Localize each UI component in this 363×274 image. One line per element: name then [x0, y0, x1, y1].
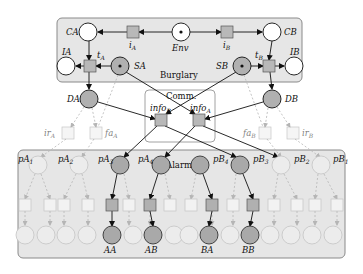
svg-text:CA: CA — [66, 27, 79, 37]
place-Env: Env — [171, 23, 190, 53]
petri-net-diagram: Burglary Comm. Alarm — [0, 0, 363, 274]
svg-text:Env: Env — [171, 43, 189, 53]
place-DB: DB — [263, 90, 298, 108]
transition-irB: irB — [287, 127, 314, 139]
transition-faA: faA — [90, 127, 118, 139]
svg-text:IA: IA — [61, 47, 72, 57]
svg-text:AA: AA — [103, 245, 116, 255]
svg-text:DA: DA — [66, 94, 80, 104]
svg-text:pB1: pB1 — [333, 154, 349, 165]
svg-text:SA: SA — [134, 61, 146, 71]
svg-text:irA: irA — [44, 128, 56, 139]
place-DA: DA — [66, 90, 98, 108]
transition-faB: faB — [242, 127, 271, 139]
alarm-output-places — [16, 226, 342, 244]
svg-text:IB: IB — [289, 47, 300, 57]
svg-text:AB: AB — [144, 245, 157, 255]
svg-text:BB: BB — [241, 245, 255, 255]
svg-text:CB: CB — [284, 27, 297, 37]
svg-text:irB: irB — [302, 128, 314, 139]
transition-irA: irA — [44, 127, 74, 139]
svg-text:faA: faA — [104, 128, 118, 139]
burglary-label: Burglary — [160, 70, 198, 80]
svg-text:DB: DB — [284, 94, 298, 104]
svg-text:faB: faB — [242, 128, 256, 139]
svg-text:SB: SB — [216, 61, 228, 71]
svg-text:BA: BA — [200, 245, 213, 255]
